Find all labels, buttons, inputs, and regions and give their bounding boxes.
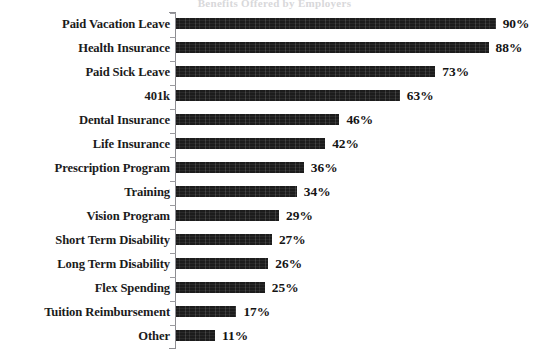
- category-label: Training: [0, 180, 170, 204]
- bar-row: Paid Vacation Leave90%: [0, 12, 549, 36]
- category-label: Paid Sick Leave: [0, 60, 170, 84]
- bar-value-label: 27%: [279, 228, 306, 252]
- bar-row: Long Term Disability26%: [0, 252, 549, 276]
- bar: [176, 186, 297, 197]
- horizontal-bar-chart: Benefits Offered by Employers Paid Vacat…: [0, 0, 549, 362]
- chart-title-remnant: Benefits Offered by Employers: [0, 0, 549, 9]
- bar: [176, 90, 400, 101]
- bar-row: Tuition Reimbursement17%: [0, 300, 549, 324]
- category-label: Long Term Disability: [0, 252, 170, 276]
- bar-value-label: 17%: [243, 300, 270, 324]
- bar-value-label: 63%: [407, 84, 434, 108]
- category-label: Tuition Reimbursement: [0, 300, 170, 324]
- bar-value-label: 88%: [496, 36, 523, 60]
- bar-value-label: 25%: [272, 276, 299, 300]
- bar: [176, 330, 215, 341]
- category-label: 401k: [0, 84, 170, 108]
- bar: [176, 234, 272, 245]
- bar-row: 401k63%: [0, 84, 549, 108]
- bar-row: Short Term Disability27%: [0, 228, 549, 252]
- bar-row: Dental Insurance46%: [0, 108, 549, 132]
- bar: [176, 66, 435, 77]
- bar-row: Flex Spending25%: [0, 276, 549, 300]
- category-label: Health Insurance: [0, 36, 170, 60]
- bar-row: Paid Sick Leave73%: [0, 60, 549, 84]
- bar-row: Prescription Program36%: [0, 156, 549, 180]
- bar-row: Life Insurance42%: [0, 132, 549, 156]
- bar: [176, 162, 304, 173]
- category-label: Prescription Program: [0, 156, 170, 180]
- category-label: Dental Insurance: [0, 108, 170, 132]
- category-label: Other: [0, 324, 170, 348]
- bar-value-label: 26%: [275, 252, 302, 276]
- category-label: Flex Spending: [0, 276, 170, 300]
- category-label: Paid Vacation Leave: [0, 12, 170, 36]
- plot-area: Paid Vacation Leave90%Health Insurance88…: [0, 11, 549, 351]
- bar-row: Health Insurance88%: [0, 36, 549, 60]
- bar: [176, 42, 489, 53]
- bar: [176, 114, 339, 125]
- category-label: Short Term Disability: [0, 228, 170, 252]
- bar-value-label: 42%: [332, 132, 359, 156]
- bar-value-label: 46%: [346, 108, 373, 132]
- bar: [176, 18, 496, 29]
- bar-value-label: 34%: [304, 180, 331, 204]
- category-label: Life Insurance: [0, 132, 170, 156]
- bar-row: Other11%: [0, 324, 549, 348]
- bar-row: Training34%: [0, 180, 549, 204]
- bar: [176, 210, 279, 221]
- category-label: Vision Program: [0, 204, 170, 228]
- bar: [176, 258, 268, 269]
- bar-value-label: 73%: [442, 60, 469, 84]
- bar: [176, 138, 325, 149]
- bar-row: Vision Program29%: [0, 204, 549, 228]
- bar: [176, 282, 265, 293]
- bar: [176, 306, 236, 317]
- bar-value-label: 29%: [286, 204, 313, 228]
- bar-value-label: 36%: [311, 156, 338, 180]
- bar-value-label: 11%: [222, 324, 248, 348]
- bar-value-label: 90%: [503, 12, 530, 36]
